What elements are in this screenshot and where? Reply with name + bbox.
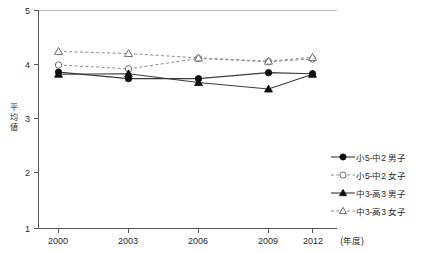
y-axis-ticks: [34, 11, 39, 229]
x-tick-label-2012: 2012: [303, 236, 323, 246]
legend-key-filled-circle: [330, 150, 356, 164]
data-point-0-3: [265, 69, 271, 75]
data-point-1-0: [55, 62, 61, 68]
x-tick-label-2009: 2009: [258, 236, 278, 246]
y-axis-title-char-1: 平: [10, 103, 18, 112]
legend-key-open-triangle: [330, 204, 356, 218]
x-axis-ticks: [59, 229, 313, 234]
legend-label-3: 中3-高3 女子: [356, 205, 406, 217]
y-tick-label-1: 1: [25, 224, 30, 234]
data-point-3-0: [55, 47, 63, 54]
legend-label-1: 小5-中2 女子: [356, 169, 406, 181]
legend-item-3[interactable]: 中3-高3 女子: [330, 202, 421, 220]
legend-item-0[interactable]: 小5-中2 男子: [330, 148, 421, 166]
legend-item-2[interactable]: 中3-高3 男子: [330, 184, 421, 202]
x-tick-label-2003: 2003: [118, 236, 138, 246]
series-layer: [55, 47, 317, 92]
series-line-0: [59, 72, 313, 79]
series-line-1: [59, 58, 313, 68]
legend-key-open-circle: [330, 168, 356, 182]
y-tick-label-5: 5: [25, 6, 30, 16]
y-tick-label-4: 4: [25, 60, 30, 70]
x-axis-unit-label: (年度): [340, 236, 364, 246]
chart-container: 5 4 3 2 1 平 均 値 2000 2003 2006 2009 2012…: [0, 0, 421, 253]
y-tick-label-2: 2: [25, 168, 30, 178]
chart-legend: 小5-中2 男子 小5-中2 女子 中3-高3 男子 中3-高3 女子: [330, 148, 421, 220]
legend-label-0: 小5-中2 男子: [356, 151, 406, 163]
legend-key-filled-triangle: [330, 186, 356, 200]
y-tick-label-3: 3: [25, 114, 30, 124]
legend-label-2: 中3-高3 男子: [356, 187, 406, 199]
series-line-3: [59, 51, 313, 61]
series-0: [55, 69, 315, 82]
x-tick-label-2006: 2006: [188, 236, 208, 246]
series-1: [55, 55, 315, 72]
y-axis-title: 平 均 値: [10, 103, 18, 132]
y-axis-title-char-3: 値: [10, 122, 18, 132]
x-tick-label-2000: 2000: [48, 236, 68, 246]
y-axis-title-char-2: 均: [10, 112, 18, 122]
series-3: [55, 47, 317, 64]
legend-item-1[interactable]: 小5-中2 女子: [330, 166, 421, 184]
